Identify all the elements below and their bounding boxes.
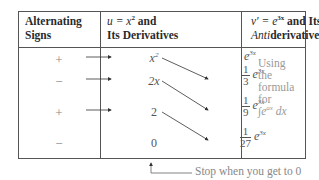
stop-note: Stop when you get to 0 [195, 165, 301, 177]
arrow-icon [162, 81, 208, 110]
arrow-icon [162, 112, 208, 140]
arrow-icon [162, 58, 208, 79]
arrows-overlay [0, 0, 319, 180]
